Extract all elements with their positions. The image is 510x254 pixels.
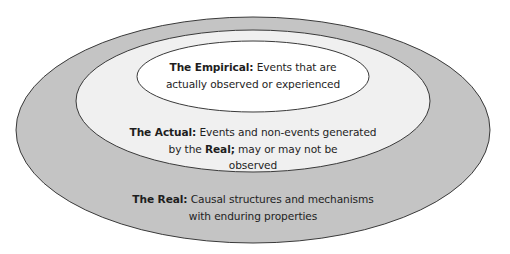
- real-line-2: with enduring properties: [110, 208, 396, 225]
- actual-line-3: observed: [110, 157, 396, 174]
- real-desc-1: Causal structures and mechanisms: [191, 193, 374, 205]
- empirical-term: The Empirical:: [170, 61, 254, 73]
- actual-desc-2-suffix: may or may not be: [238, 143, 337, 155]
- actual-label: The Actual: Events and non-events genera…: [110, 124, 396, 174]
- empirical-desc-1: Events that are: [257, 61, 337, 73]
- actual-term: The Actual:: [130, 126, 197, 138]
- actual-line-1: The Actual: Events and non-events genera…: [110, 124, 396, 141]
- actual-line-2: by the Real; may or may not be: [110, 141, 396, 158]
- actual-real-reference: Real;: [205, 143, 235, 155]
- empirical-label: The Empirical: Events that are actually …: [150, 59, 356, 92]
- real-line-1: The Real: Causal structures and mechanis…: [110, 191, 396, 208]
- real-term: The Real:: [132, 193, 187, 205]
- real-label: The Real: Causal structures and mechanis…: [110, 191, 396, 224]
- actual-desc-2-prefix: by the: [169, 143, 202, 155]
- actual-desc-1: Events and non-events generated: [199, 126, 376, 138]
- empirical-line-2: actually observed or experienced: [150, 76, 356, 93]
- empirical-line-1: The Empirical: Events that are: [150, 59, 356, 76]
- critical-realism-stratified-ontology-diagram: The Empirical: Events that are actually …: [0, 0, 510, 254]
